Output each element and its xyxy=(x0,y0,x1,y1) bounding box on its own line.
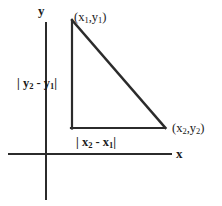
vertical-leg-label: | y2 - y1| xyxy=(17,77,57,91)
diagram-canvas xyxy=(0,0,222,206)
horizontal-leg-bar-close: | xyxy=(113,135,116,149)
point-1-comma: ,y xyxy=(89,10,98,24)
point-2-open: (x xyxy=(172,121,182,135)
vertical-leg-bar-close: | xyxy=(54,76,57,90)
point-2-close: ) xyxy=(200,121,204,135)
triangle-hypotenuse xyxy=(72,20,166,128)
vertical-leg-minus: - y xyxy=(33,76,50,90)
point-2-comma: ,y xyxy=(187,121,196,135)
point-1-close: ) xyxy=(102,10,106,24)
point-1-open: (x xyxy=(74,10,84,24)
y-axis-label: y xyxy=(38,4,45,17)
point-2-label: (x2,y2) xyxy=(172,122,204,136)
horizontal-leg-label: | x2 - x1| xyxy=(76,136,116,150)
horizontal-leg-minus: - x xyxy=(92,135,109,149)
distance-formula-diagram: y x (x1,y1) (x2,y2) | y2 - y1| | x2 - x1… xyxy=(0,0,222,206)
x-axis-label: x xyxy=(176,147,183,160)
horizontal-leg-bar-open: | x xyxy=(76,135,88,149)
vertical-leg-bar-open: | y xyxy=(17,76,29,90)
point-1-label: (x1,y1) xyxy=(74,11,106,25)
